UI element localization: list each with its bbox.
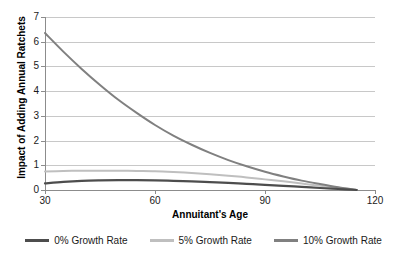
x-tick-mark xyxy=(265,190,266,194)
y-tick-label: 6 xyxy=(17,37,39,47)
y-tick-label: 1 xyxy=(17,160,39,170)
series-line xyxy=(45,180,357,190)
x-tick-label: 90 xyxy=(250,196,280,206)
series-layer xyxy=(0,0,407,264)
gridline xyxy=(45,116,375,117)
y-tick-label: 7 xyxy=(17,12,39,22)
gridline xyxy=(45,42,375,43)
chart-legend: 0% Growth Rate5% Growth Rate10% Growth R… xyxy=(0,235,407,246)
x-axis-title: Annuitant's Age xyxy=(45,209,375,220)
legend-label: 10% Growth Rate xyxy=(303,235,382,246)
y-tick-label: 4 xyxy=(17,86,39,96)
legend-swatch-icon xyxy=(274,239,298,242)
legend-item[interactable]: 5% Growth Rate xyxy=(150,235,252,246)
gridline xyxy=(45,17,375,18)
gridline xyxy=(45,66,375,67)
y-tick-label: 2 xyxy=(17,136,39,146)
series-line xyxy=(45,171,357,190)
x-tick-label: 60 xyxy=(140,196,170,206)
y-axis-line xyxy=(45,17,46,191)
legend-swatch-icon xyxy=(25,239,49,242)
gridline xyxy=(45,91,375,92)
legend-item[interactable]: 0% Growth Rate xyxy=(25,235,127,246)
legend-item[interactable]: 10% Growth Rate xyxy=(274,235,382,246)
x-tick-mark xyxy=(45,190,46,194)
y-tick-label: 5 xyxy=(17,61,39,71)
legend-swatch-icon xyxy=(150,239,174,242)
x-tick-mark xyxy=(375,190,376,194)
legend-label: 0% Growth Rate xyxy=(54,235,127,246)
gridline xyxy=(45,165,375,166)
x-axis-line xyxy=(45,190,376,191)
y-tick-label: 3 xyxy=(17,111,39,121)
y-tick-label: 0 xyxy=(17,185,39,195)
x-tick-label: 120 xyxy=(360,196,390,206)
series-line xyxy=(45,33,357,190)
gridline xyxy=(45,141,375,142)
x-tick-mark xyxy=(155,190,156,194)
chart-container: Impact of Adding Annual Ratchets 0123456… xyxy=(0,0,407,264)
x-tick-label: 30 xyxy=(30,196,60,206)
legend-label: 5% Growth Rate xyxy=(179,235,252,246)
